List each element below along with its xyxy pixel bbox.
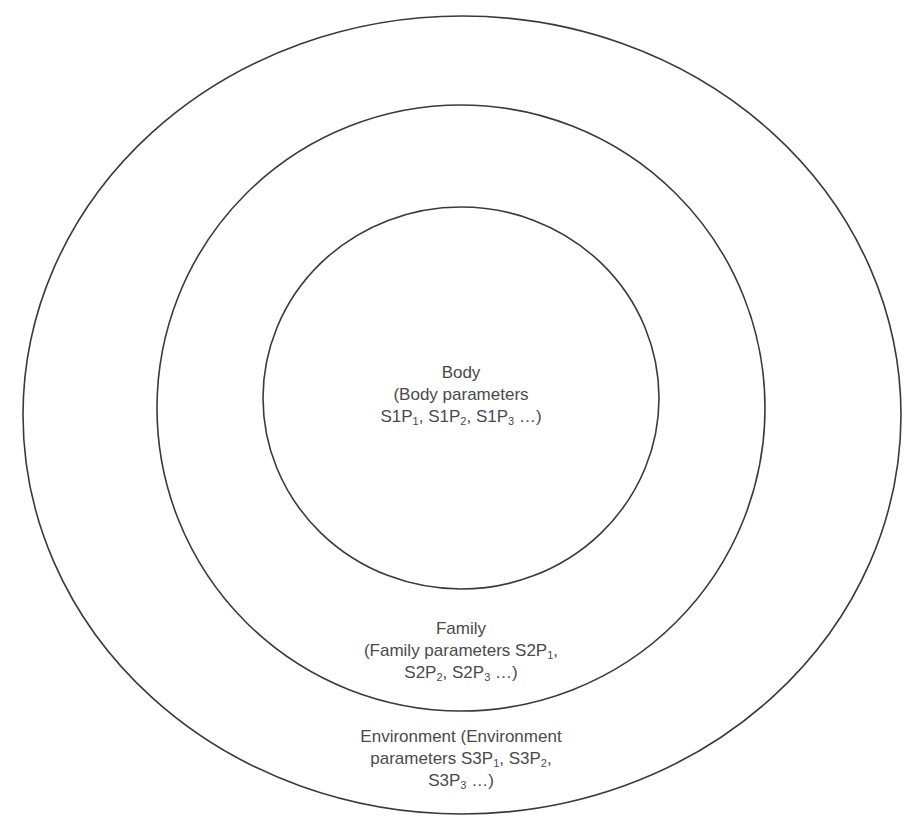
separator: , — [553, 641, 558, 660]
text-run: , S2P — [443, 663, 485, 682]
body-parameters-heading: (Body parameters — [311, 384, 611, 406]
text-run: S3P — [428, 771, 460, 790]
body-label: Body (Body parameters S1P1, S1P2, S1P3 …… — [311, 362, 611, 428]
text-run: , S1P — [419, 407, 461, 426]
environment-title: Environment (Environment — [311, 726, 611, 748]
text-run: , S1P — [466, 407, 508, 426]
body-parameters-list: S1P1, S1P2, S1P3 …) — [311, 406, 611, 428]
text-run: …) — [514, 407, 541, 426]
family-parameters-heading: (Family parameters S2P1, — [311, 640, 611, 662]
text-run: S1P — [380, 407, 412, 426]
family-title: Family — [311, 618, 611, 640]
family-parameters-text: (Family parameters S2P — [364, 641, 547, 660]
text-run: , — [547, 749, 552, 768]
environment-parameters-list-2: S3P3 …) — [311, 770, 611, 792]
environment-parameters-list-1: parameters S3P1, S3P2, — [311, 748, 611, 770]
text-run: …) — [490, 663, 517, 682]
text-run: …) — [466, 771, 493, 790]
text-run: , S3P — [499, 749, 541, 768]
body-title: Body — [311, 362, 611, 384]
family-label: Family (Family parameters S2P1, S2P2, S2… — [311, 618, 611, 684]
environment-label: Environment (Environment parameters S3P1… — [311, 726, 611, 792]
text-run: parameters S3P — [370, 749, 493, 768]
family-parameters-list: S2P2, S2P3 …) — [311, 662, 611, 684]
text-run: S2P — [404, 663, 436, 682]
